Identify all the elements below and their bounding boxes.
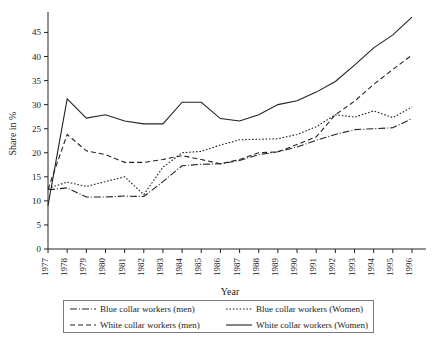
x-tick-label: 1996 <box>404 258 414 277</box>
x-tick-label: 1990 <box>289 258 299 277</box>
legend-label-white-collar-men: White collar workers (men) <box>100 320 200 330</box>
legend-label-white-collar-women: White collar workers (Women) <box>256 320 368 330</box>
y-tick-label: 45 <box>32 27 42 37</box>
x-tick-label: 1981 <box>117 258 127 276</box>
x-tick-label: 1984 <box>174 258 184 277</box>
series-line <box>48 119 412 197</box>
y-tick-label: 30 <box>32 100 42 110</box>
plot-area: 0510152025303540451977197819791980198119… <box>0 0 437 300</box>
line-chart-svg: 0510152025303540451977197819791980198119… <box>0 0 437 300</box>
chart-container: 0510152025303540451977197819791980198119… <box>0 0 437 346</box>
x-tick-label: 1978 <box>59 258 69 277</box>
y-tick-label: 40 <box>32 52 42 62</box>
y-tick-label: 20 <box>32 148 42 158</box>
y-tick-label: 10 <box>32 196 42 206</box>
legend-item-white-collar-men: White collar workers (men) <box>64 317 226 333</box>
legend-swatch-blue-collar-women <box>226 304 252 314</box>
x-tick-label: 1995 <box>385 258 395 277</box>
legend-item-blue-collar-women: Blue collar workers (Women) <box>226 301 373 317</box>
x-tick-label: 1980 <box>97 258 107 277</box>
chart-legend: Blue collar workers (men) Blue collar wo… <box>63 300 374 333</box>
x-tick-label: 1985 <box>193 258 203 277</box>
y-tick-label: 0 <box>37 244 42 254</box>
x-axis-title: Year <box>221 286 240 297</box>
x-tick-label: 1977 <box>40 258 50 277</box>
legend-row-2: White collar workers (men) White collar … <box>64 317 373 333</box>
x-tick-label: 1988 <box>251 258 261 277</box>
legend-swatch-white-collar-women <box>226 320 252 330</box>
legend-item-white-collar-women: White collar workers (Women) <box>226 317 373 333</box>
series-line <box>48 17 412 206</box>
x-tick-label: 1979 <box>78 258 88 277</box>
y-axis-title: Share in % <box>7 112 18 156</box>
x-tick-label: 1982 <box>136 258 146 276</box>
legend-swatch-white-collar-men <box>70 320 96 330</box>
x-tick-label: 1992 <box>327 258 337 276</box>
y-tick-label: 35 <box>32 76 42 86</box>
x-tick-label: 1987 <box>232 258 242 277</box>
x-tick-label: 1983 <box>155 258 165 277</box>
x-tick-label: 1989 <box>270 258 280 277</box>
legend-label-blue-collar-women: Blue collar workers (Women) <box>256 304 363 314</box>
x-tick-label: 1986 <box>212 258 222 277</box>
y-tick-label: 15 <box>32 172 42 182</box>
x-tick-label: 1993 <box>347 258 357 277</box>
legend-item-blue-collar-men: Blue collar workers (men) <box>64 301 226 317</box>
series-line <box>48 55 412 189</box>
legend-swatch-blue-collar-men <box>70 304 96 314</box>
y-tick-label: 25 <box>32 124 42 134</box>
y-tick-label: 5 <box>37 220 42 230</box>
x-tick-label: 1994 <box>366 258 376 277</box>
x-tick-label: 1991 <box>308 258 318 276</box>
legend-row-1: Blue collar workers (men) Blue collar wo… <box>64 301 373 317</box>
legend-label-blue-collar-men: Blue collar workers (men) <box>100 304 195 314</box>
